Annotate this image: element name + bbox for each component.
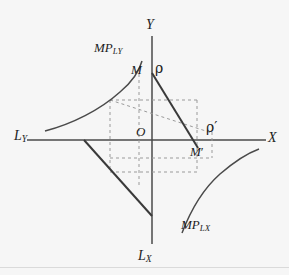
ly-axis-label-base: L bbox=[14, 128, 22, 143]
origin-label: O bbox=[136, 125, 145, 138]
point-m-prime-label-text: M bbox=[190, 144, 201, 159]
point-m-prime-label: M′ bbox=[190, 145, 204, 158]
point-m-label: M bbox=[131, 63, 142, 76]
mp-ly-label-base: MP bbox=[94, 40, 113, 55]
dashed-chord-to-rho-prime bbox=[110, 100, 212, 133]
point-rho-label: ρ bbox=[155, 61, 163, 75]
point-rho-prime-mark: ′ bbox=[214, 119, 217, 135]
diagram-figure: Y X LY LX O MPLY MPLX M ρ M′ ρ′ bbox=[0, 0, 289, 275]
x-axis-label: X bbox=[268, 131, 277, 145]
lx-axis-label-base: L bbox=[138, 248, 146, 263]
page-rule bbox=[0, 267, 289, 268]
lower-left-line bbox=[84, 140, 152, 216]
lx-axis-label: LX bbox=[138, 249, 152, 265]
point-rho-prime-label: ρ′ bbox=[206, 120, 217, 134]
point-rho-prime-label-text: ρ bbox=[206, 119, 214, 135]
mp-lx-label: MPLX bbox=[181, 218, 210, 233]
rho-to-mprime-line bbox=[152, 73, 198, 148]
lx-axis-label-sub: X bbox=[146, 254, 152, 264]
y-axis-label: Y bbox=[146, 18, 154, 32]
point-m-prime-mark: ′ bbox=[201, 144, 204, 159]
point-m-label-text: M bbox=[131, 62, 142, 77]
ly-axis-label-sub: Y bbox=[22, 134, 27, 144]
mp-ly-label: MPLY bbox=[94, 41, 122, 56]
mp-lx-label-sub: LX bbox=[200, 223, 210, 233]
mp-ly-curve bbox=[45, 61, 142, 131]
ly-axis-label: LY bbox=[14, 129, 27, 145]
mp-ly-label-sub: LY bbox=[113, 46, 123, 56]
point-rho-label-text: ρ bbox=[155, 60, 163, 76]
mp-lx-label-base: MP bbox=[181, 217, 200, 232]
